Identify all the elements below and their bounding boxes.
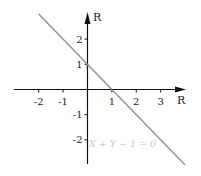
y-axis-label: R bbox=[93, 11, 102, 24]
y-axis-arrow-icon bbox=[85, 12, 91, 24]
x-tick-label: 3 bbox=[158, 96, 164, 107]
y-tick-label: 2 bbox=[76, 34, 82, 45]
chart-plot: -2-112321-1-2 RRX + Y − 1 = 0 bbox=[0, 0, 201, 176]
x-axis-label: R bbox=[177, 94, 186, 107]
x-tick-label: 1 bbox=[109, 96, 115, 107]
y-tick-label: -2 bbox=[73, 134, 83, 145]
x-tick-label: -1 bbox=[58, 96, 68, 107]
equation-annotation: X + Y − 1 = 0 bbox=[88, 138, 156, 149]
x-tick-label: 2 bbox=[133, 96, 139, 107]
x-tick-label: -2 bbox=[34, 96, 44, 107]
y-tick-label: -1 bbox=[73, 109, 83, 120]
x-axis-arrow-icon bbox=[175, 87, 186, 93]
y-tick-label: 1 bbox=[76, 59, 82, 70]
